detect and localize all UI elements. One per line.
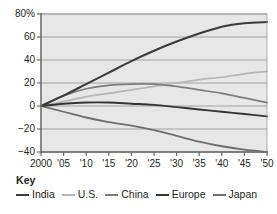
- y-tick-label: 0: [29, 100, 35, 111]
- x-tick-label: '05: [57, 158, 70, 169]
- x-tick-label: '10: [80, 158, 93, 169]
- legend-swatch-line-icon: [213, 194, 226, 196]
- x-tick-label: '30: [170, 158, 183, 169]
- x-tick-label: '25: [147, 158, 160, 169]
- legend-item-india[interactable]: India: [16, 188, 55, 201]
- legend-label: U.S.: [78, 188, 98, 201]
- legend-swatch-line-icon: [62, 194, 75, 196]
- legend-item-japan[interactable]: Japan: [213, 188, 258, 201]
- x-tick-label: 2000: [30, 158, 53, 169]
- legend-item-europe[interactable]: Europe: [156, 188, 206, 201]
- legend-label: India: [32, 188, 55, 201]
- y-tick-label: 20: [24, 77, 36, 88]
- y-tick-label: −40: [18, 146, 35, 157]
- legend-swatch-line-icon: [156, 194, 169, 196]
- chart-legend: Key IndiaU.S.ChinaEuropeJapan: [16, 174, 277, 201]
- y-tick-label: 60: [24, 31, 36, 42]
- legend-swatch-line-icon: [105, 194, 118, 196]
- y-tick-label: 40: [24, 54, 36, 65]
- y-tick-label: 80%: [15, 8, 35, 19]
- x-tick-label: '20: [125, 158, 138, 169]
- y-tick-label: −20: [18, 123, 35, 134]
- y-axis-ticks: 80%6040200−20−40: [15, 8, 41, 157]
- legend-swatch-line-icon: [16, 194, 29, 196]
- plot-area: 80%6040200−20−40 2000'05'10'15'20'25'30'…: [0, 0, 277, 170]
- chart-figure: 80%6040200−20−40 2000'05'10'15'20'25'30'…: [0, 0, 277, 214]
- legend-item-us[interactable]: U.S.: [62, 188, 98, 201]
- x-tick-label: '15: [102, 158, 115, 169]
- legend-label: China: [121, 188, 148, 201]
- line-chart-svg: 80%6040200−20−40 2000'05'10'15'20'25'30'…: [0, 0, 277, 170]
- x-tick-label: '40: [215, 158, 228, 169]
- x-tick-label: '50: [260, 158, 273, 169]
- legend-items: IndiaU.S.ChinaEuropeJapan: [16, 188, 277, 201]
- x-axis-ticks: 2000'05'10'15'20'25'30'35'40'45'50: [30, 152, 274, 169]
- legend-label: Japan: [229, 188, 258, 201]
- legend-title: Key: [16, 174, 277, 186]
- legend-label: Europe: [172, 188, 206, 201]
- x-tick-label: '35: [193, 158, 206, 169]
- x-tick-label: '45: [238, 158, 251, 169]
- legend-item-china[interactable]: China: [105, 188, 148, 201]
